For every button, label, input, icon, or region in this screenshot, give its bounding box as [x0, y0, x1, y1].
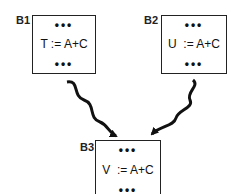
- ellipsis-bottom: •••: [119, 185, 138, 194]
- edge-b2-b3-wavy-arrow: [152, 80, 195, 134]
- block-b3-label: B3: [80, 141, 94, 153]
- statement: V := A+C: [102, 163, 153, 177]
- edge-b1-b3-wavy-arrow: [67, 82, 116, 136]
- ellipsis-top: •••: [119, 145, 138, 155]
- block-b3: ••• V := A+C •••: [95, 140, 161, 194]
